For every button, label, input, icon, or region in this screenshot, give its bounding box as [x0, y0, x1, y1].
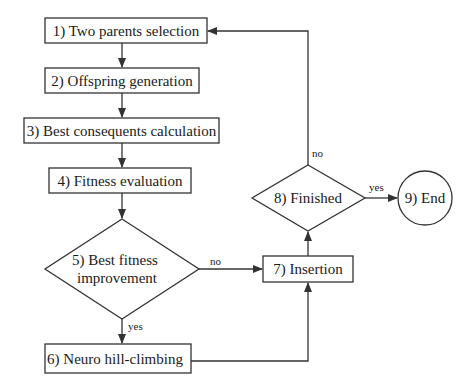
node-label: 1) Two parents selection [53, 23, 200, 40]
edge-label-no-8-1: no [312, 147, 324, 159]
node-finished: 8) Finished [252, 165, 365, 231]
node-label: 6) Neuro hill-climbing [47, 351, 183, 368]
node-offspring-generation: 2) Offspring generation [45, 68, 199, 93]
node-end: 9) End [398, 171, 452, 225]
node-label: 9) End [405, 190, 446, 207]
node-best-fitness-improvement: 5) Best fitness improvement [45, 219, 199, 319]
edge-label-yes-8-9: yes [369, 181, 384, 193]
node-label: 7) Insertion [273, 261, 343, 278]
edge-8-1-no [208, 31, 308, 165]
node-label-line1: 5) Best fitness [72, 252, 158, 269]
node-label: 4) Fitness evaluation [58, 173, 183, 190]
node-insertion: 7) Insertion [263, 256, 353, 282]
node-label: 3) Best consequents calculation [27, 123, 217, 140]
edge-6-7 [191, 283, 308, 361]
edge-label-no-5-7: no [210, 255, 222, 267]
edge-label-yes-5-6: yes [128, 320, 143, 332]
flowchart: yes no yes no 1) Two parents selection 2… [0, 0, 474, 392]
node-best-consequents-calculation: 3) Best consequents calculation [24, 118, 219, 143]
node-label-line2: improvement [77, 270, 158, 286]
node-label: 2) Offspring generation [51, 73, 193, 90]
node-label: 8) Finished [274, 190, 342, 207]
node-fitness-evaluation: 4) Fitness evaluation [49, 168, 191, 193]
node-two-parents-selection: 1) Two parents selection [45, 18, 207, 43]
node-neuro-hill-climbing: 6) Neuro hill-climbing [45, 344, 191, 373]
